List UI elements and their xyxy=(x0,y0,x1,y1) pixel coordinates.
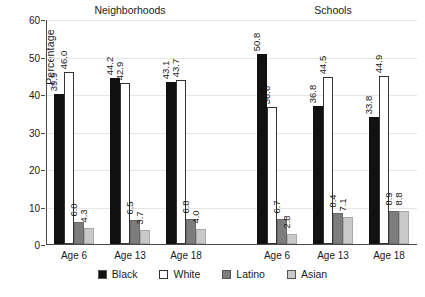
bar-value-label: 6.7 xyxy=(271,200,282,213)
legend-item: White xyxy=(159,268,200,280)
bar-value-label: 2.8 xyxy=(281,215,292,228)
bar-group: 39.946.06.04.3Age 6 xyxy=(46,20,102,245)
legend-label: Asian xyxy=(301,268,327,280)
legend-swatch-icon xyxy=(287,270,296,279)
x-tick-label: Age 13 xyxy=(114,250,146,261)
bar-value-label: 36.6 xyxy=(261,86,272,105)
bar-group: 36.844.58.47.1Age 13 xyxy=(305,20,361,245)
bar: 8.4 xyxy=(333,213,343,245)
legend-swatch-icon xyxy=(222,270,231,279)
y-tick-label: 40 xyxy=(29,90,40,101)
bar-value-label: 39.9 xyxy=(48,73,59,92)
bar: 4.0 xyxy=(196,229,206,244)
bar: 43.7 xyxy=(176,80,186,244)
bar-value-label: 4.0 xyxy=(190,210,201,223)
legend-swatch-icon xyxy=(159,270,168,279)
panel-title: Schools xyxy=(249,4,417,16)
bar: 6.0 xyxy=(74,222,84,245)
y-tick-mark xyxy=(41,245,45,246)
bar-value-label: 7.1 xyxy=(337,199,348,212)
bar: 4.3 xyxy=(84,228,94,244)
bar-value-label: 43.7 xyxy=(170,59,181,78)
bar: 2.8 xyxy=(287,234,297,245)
bar-value-label: 46.0 xyxy=(58,50,69,69)
y-tick-label: 10 xyxy=(29,202,40,213)
bar-group: 33.844.98.98.8Age 18 xyxy=(361,20,417,245)
plot-area: Percentage 0102030405060 Neighborhoods39… xyxy=(46,20,417,245)
y-tick-mark xyxy=(41,170,45,171)
y-tick-label: 30 xyxy=(29,127,40,138)
bar: 42.9 xyxy=(120,83,130,244)
x-tick-label: Age 6 xyxy=(264,250,290,261)
bar: 39.9 xyxy=(54,94,64,244)
legend-label: Black xyxy=(112,268,138,280)
x-tick-label: Age 6 xyxy=(61,250,87,261)
bar: 43.1 xyxy=(166,82,176,244)
bar-value-label: 44.5 xyxy=(317,56,328,75)
x-tick-label: Age 13 xyxy=(317,250,349,261)
bar: 36.8 xyxy=(313,106,323,244)
bar-chart: Percentage 0102030405060 Neighborhoods39… xyxy=(0,0,425,297)
bar-value-label: 8.8 xyxy=(393,192,404,205)
bar: 44.9 xyxy=(379,76,389,244)
y-tick-mark xyxy=(41,208,45,209)
legend-item: Latino xyxy=(222,268,265,280)
legend-label: Latino xyxy=(236,268,265,280)
chart-panel: Schools50.836.66.72.8Age 636.844.58.47.1… xyxy=(249,20,417,245)
bar: 50.8 xyxy=(257,54,267,245)
bar-value-label: 4.3 xyxy=(78,209,89,222)
bar-group: 44.242.96.53.7Age 13 xyxy=(102,20,158,245)
bar: 36.6 xyxy=(267,107,277,244)
x-tick-label: Age 18 xyxy=(373,250,405,261)
bar: 3.7 xyxy=(140,230,150,244)
bar: 44.5 xyxy=(323,77,333,244)
bar: 8.9 xyxy=(389,211,399,244)
y-tick-label: 0 xyxy=(34,240,40,251)
legend-item: Asian xyxy=(287,268,327,280)
x-tick-label: Age 18 xyxy=(170,250,202,261)
bar-value-label: 33.8 xyxy=(363,96,374,115)
bar-value-label: 44.9 xyxy=(373,54,384,73)
y-tick-mark xyxy=(41,20,45,21)
bar: 46.0 xyxy=(64,72,74,245)
y-tick-label: 60 xyxy=(29,15,40,26)
legend-label: White xyxy=(173,268,200,280)
bar-group: 43.143.76.84.0Age 18 xyxy=(158,20,214,245)
bar: 7.1 xyxy=(343,217,353,244)
y-tick-label: 20 xyxy=(29,165,40,176)
chart-legend: BlackWhiteLatinoAsian xyxy=(0,268,425,280)
bar-value-label: 42.9 xyxy=(114,62,125,81)
bar-group: 50.836.66.72.8Age 6 xyxy=(249,20,305,245)
y-tick-mark xyxy=(41,58,45,59)
panel-title: Neighborhoods xyxy=(46,4,214,16)
legend-swatch-icon xyxy=(98,270,107,279)
bar: 33.8 xyxy=(369,117,379,244)
bar: 44.2 xyxy=(110,78,120,244)
bar-value-label: 36.8 xyxy=(307,85,318,104)
bar-value-label: 3.7 xyxy=(134,212,145,225)
bar: 8.8 xyxy=(399,211,409,244)
y-tick-mark xyxy=(41,95,45,96)
y-tick-label: 50 xyxy=(29,52,40,63)
bar-value-label: 50.8 xyxy=(251,32,262,51)
legend-item: Black xyxy=(98,268,138,280)
chart-panel: Neighborhoods39.946.06.04.3Age 644.242.9… xyxy=(46,20,214,245)
y-tick-mark xyxy=(41,133,45,134)
